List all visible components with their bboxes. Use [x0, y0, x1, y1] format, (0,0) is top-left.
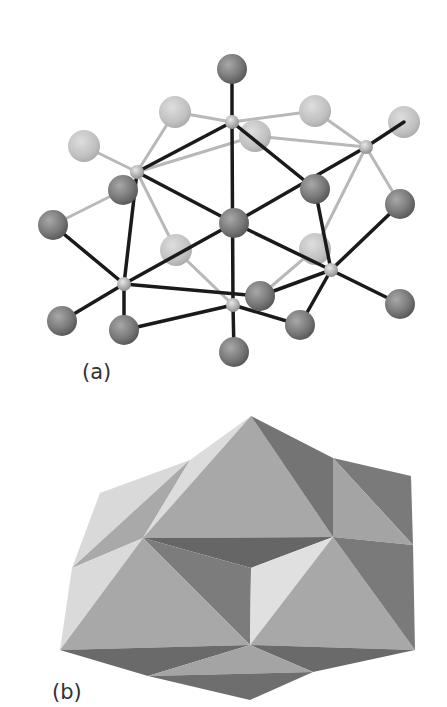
atom-dark: [217, 54, 247, 84]
atom-dark: [109, 315, 139, 345]
atom-light: [159, 96, 191, 128]
panel-label-b: (b): [52, 680, 82, 704]
figure-canvas: [0, 0, 447, 707]
panel-label-a: (a): [82, 360, 111, 384]
back-bonds: [53, 111, 400, 305]
front-atoms: [38, 54, 415, 367]
atom-dark: [219, 337, 249, 367]
atom-dark: [219, 208, 249, 238]
atom-light: [299, 95, 331, 127]
atom-dark: [38, 210, 68, 240]
node: [226, 298, 240, 312]
atom-dark: [300, 174, 330, 204]
node: [130, 165, 144, 179]
face-dark: [148, 672, 313, 700]
atom-dark: [108, 175, 138, 205]
atom-dark: [245, 281, 275, 311]
atom-light: [68, 130, 100, 162]
atom-dark: [285, 310, 315, 340]
atom-dark: [385, 189, 415, 219]
atom-dark: [47, 306, 77, 336]
panel-b-polyhedron: [60, 416, 415, 700]
node: [225, 115, 239, 129]
panel-a-structure: [38, 54, 420, 367]
node: [324, 263, 338, 277]
node: [359, 140, 373, 154]
node: [117, 277, 131, 291]
atom-light: [239, 120, 271, 152]
atom-dark: [385, 289, 415, 319]
